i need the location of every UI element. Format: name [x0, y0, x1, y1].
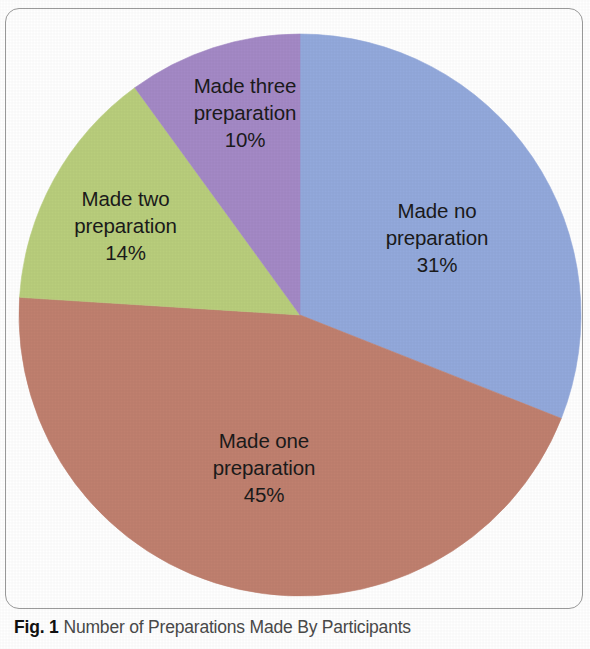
chart-panel: Made no preparation 31% Made one prepara… — [5, 8, 583, 609]
pie-chart-svg — [6, 9, 583, 609]
pie-slice-group — [19, 34, 581, 596]
pie-chart: Made no preparation 31% Made one prepara… — [6, 9, 583, 609]
figure-caption-text: Number of Preparations Made By Participa… — [64, 617, 411, 637]
figure-caption: Fig. 1Number of Preparations Made By Par… — [14, 617, 580, 638]
figure-number: Fig. 1 — [14, 617, 59, 637]
figure-container: Made no preparation 31% Made one prepara… — [0, 0, 590, 649]
